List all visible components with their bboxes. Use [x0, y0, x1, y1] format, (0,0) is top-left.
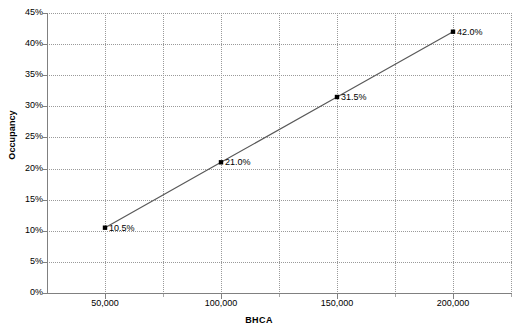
data-point-label: 42.0% [457, 28, 483, 37]
data-point-label: 21.0% [225, 158, 251, 167]
x-tick-label: 150,000 [297, 298, 377, 308]
series-line [105, 32, 453, 228]
data-point-marker [219, 160, 223, 164]
data-point-marker [335, 95, 339, 99]
occupancy-vs-bhca-chart: Occupancy 45%40%35%30%25%20%15%10%5%0% 1… [0, 0, 518, 333]
series-layer [0, 0, 518, 333]
data-point-marker [451, 30, 455, 34]
data-point-marker [103, 226, 107, 230]
x-tick-label: 200,000 [413, 298, 493, 308]
x-tick-label: 100,000 [181, 298, 261, 308]
x-axis-title: BHCA [0, 315, 518, 325]
x-tick-label: 50,000 [65, 298, 145, 308]
data-point-label: 31.5% [341, 93, 367, 102]
data-point-label: 10.5% [109, 224, 135, 233]
